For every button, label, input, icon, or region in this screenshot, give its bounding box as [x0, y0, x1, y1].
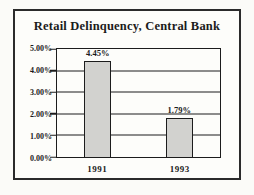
y-axis-tick: [50, 113, 57, 115]
bar-value-label: 1.79%: [168, 105, 191, 115]
y-tick-label: 5.00%: [30, 44, 52, 53]
bar-1993: [166, 118, 193, 157]
y-tick-label: 0.00%: [30, 154, 52, 163]
chart-page: Retail Delinquency, Central Bank 0.00%1.…: [0, 0, 254, 195]
bar-value-label: 4.45%: [86, 48, 109, 58]
y-tick-label: 4.00%: [30, 66, 52, 75]
y-tick-label: 3.00%: [30, 88, 52, 97]
x-tick-label: 1991: [87, 164, 107, 174]
plot-area: 4.45%1.79%: [56, 48, 221, 158]
y-axis-tick: [50, 48, 57, 50]
x-tick-label: 1993: [170, 164, 190, 174]
chart-title: Retail Delinquency, Central Bank: [15, 19, 239, 34]
y-axis-labels: 0.00%1.00%2.00%3.00%4.00%5.00%: [19, 48, 52, 158]
x-axis-labels: 19911993: [56, 162, 221, 177]
y-tick-label: 1.00%: [30, 132, 52, 141]
gridline: [57, 135, 220, 136]
chart-frame: Retail Delinquency, Central Bank 0.00%1.…: [13, 9, 241, 180]
y-tick-label: 2.00%: [30, 110, 52, 119]
y-axis-tick: [50, 135, 57, 137]
y-axis-tick: [50, 70, 57, 72]
y-axis-tick: [50, 156, 57, 158]
gridline: [57, 92, 220, 93]
bar-1991: [84, 61, 111, 157]
gridline: [57, 113, 220, 114]
y-axis-tick: [50, 91, 57, 93]
gridline: [57, 70, 220, 71]
